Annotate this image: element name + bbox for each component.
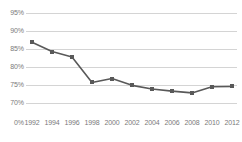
- x-tick-label-2010: 2010: [204, 119, 219, 127]
- x-tick-label-2012: 2012: [224, 119, 239, 127]
- x-tick-label-1998: 1998: [84, 119, 99, 127]
- x-tick-label-2002: 2002: [124, 119, 139, 127]
- x-tick-label-2004: 2004: [144, 119, 159, 127]
- x-tick-label-2000: 2000: [104, 119, 119, 127]
- x-tick-label-1992: 1992: [24, 119, 39, 127]
- x-tick-label-1996: 1996: [64, 119, 79, 127]
- x-tick-label-1994: 1994: [44, 119, 59, 127]
- chart-container: 95% 90% 85% 80% 75% 70% 0% 1992199419961…: [0, 0, 242, 142]
- x-tick-label-2008: 2008: [184, 119, 199, 127]
- x-axis: 1992199419961998200020022004200620082010…: [0, 0, 242, 142]
- x-tick-label-2006: 2006: [164, 119, 179, 127]
